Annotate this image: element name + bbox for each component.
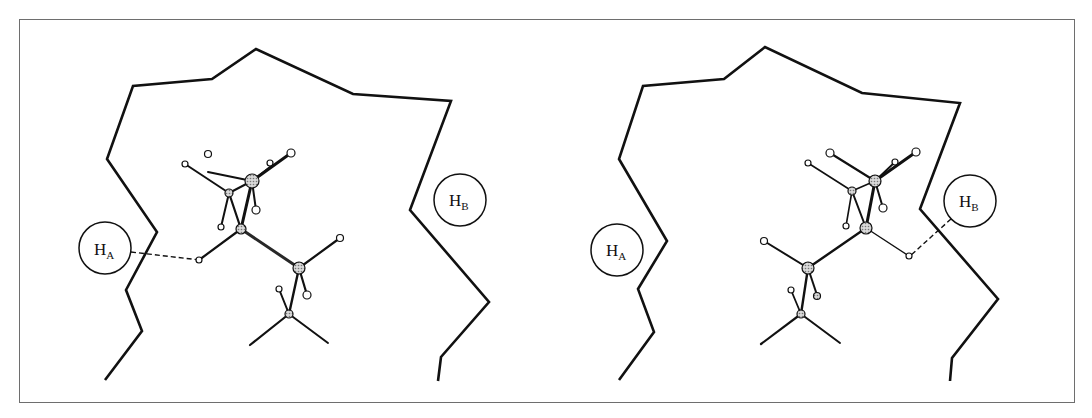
- binding-pocket-outline: [619, 47, 998, 381]
- hb-site: HB: [434, 174, 486, 226]
- stereo-diagram: HA HB: [0, 0, 1092, 418]
- molecule: [185, 153, 340, 345]
- hb-site: HB: [944, 175, 996, 227]
- molecule: [761, 152, 916, 344]
- ha-site: HA: [79, 222, 131, 274]
- left-panel: HA HB: [79, 49, 489, 381]
- right-panel: HA HB: [591, 47, 998, 381]
- binding-pocket-outline: [105, 49, 489, 381]
- ha-site: HA: [591, 224, 643, 276]
- atoms: [761, 148, 921, 318]
